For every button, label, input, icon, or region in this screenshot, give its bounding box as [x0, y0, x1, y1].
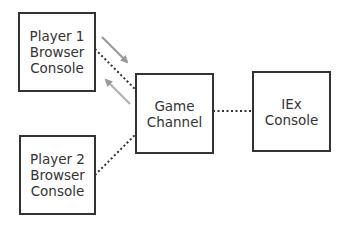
node-label-line: Console [30, 60, 85, 76]
node-label-line: Game [147, 98, 202, 114]
player2-browser-console-node: Player 2 Browser Console [19, 135, 96, 215]
edge-player1-game-channel [95, 49, 136, 90]
iex-console-node: IEx Console [252, 71, 331, 152]
node-label-line: Player 2 [30, 151, 85, 167]
node-label-line: Browser [30, 44, 85, 60]
node-label-line: Browser [30, 167, 85, 183]
edge-player2-game-channel [95, 134, 136, 175]
arrow-response-icon [106, 80, 130, 104]
node-label-line: Player 1 [30, 28, 85, 44]
player1-browser-console-node: Player 1 Browser Console [18, 12, 96, 92]
node-label-line: Channel [147, 114, 202, 130]
arrow-request-icon [102, 37, 127, 62]
node-label-line: IEx [265, 96, 319, 112]
node-label-line: Console [265, 112, 319, 128]
node-label-line: Console [30, 183, 85, 199]
game-channel-node: Game Channel [135, 73, 214, 154]
